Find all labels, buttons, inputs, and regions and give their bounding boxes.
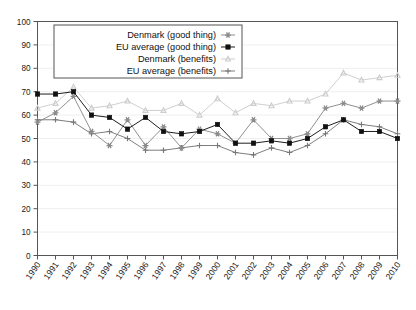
data-point-marker (197, 129, 201, 133)
x-tick-label: 1998 (167, 260, 186, 282)
data-point-marker (161, 147, 167, 153)
y-axis-labels: 1009080706050403020100 (17, 18, 31, 261)
data-point-marker (35, 92, 39, 96)
x-tick-label: 2009 (365, 260, 384, 282)
data-point-marker (125, 136, 131, 142)
y-tick-label: 30 (21, 181, 31, 190)
data-point-marker (107, 129, 113, 135)
y-tick-label: 60 (21, 111, 31, 120)
legend-label-2: EU average (good thing) (116, 42, 216, 52)
chart-legend: Denmark (good thing)EU average (good thi… (54, 25, 242, 78)
data-point-marker (323, 125, 327, 129)
x-tick-label: 1993 (77, 260, 96, 282)
y-tick-label: 0 (26, 252, 31, 261)
data-point-marker (125, 127, 129, 131)
x-tick-label: 1991 (41, 260, 60, 282)
data-point-marker (377, 129, 381, 133)
y-tick-label: 10 (21, 228, 31, 237)
data-point-marker (395, 131, 401, 137)
data-point-marker (71, 119, 77, 125)
x-tick-label: 2008 (347, 260, 366, 282)
data-point-marker (251, 152, 257, 158)
data-point-marker (341, 101, 347, 106)
data-point-marker (71, 90, 75, 94)
series-line (38, 73, 398, 115)
x-tick-label: 2010 (383, 260, 402, 282)
x-tick-label: 2007 (329, 260, 348, 282)
data-point-marker (215, 131, 221, 136)
x-tick-label: 1990 (23, 260, 42, 282)
data-point-marker (161, 129, 165, 133)
data-point-marker (287, 141, 291, 145)
x-tick-label: 2003 (257, 260, 276, 282)
data-point-marker (269, 145, 275, 151)
data-point-marker (89, 113, 93, 117)
x-tick-label: 2004 (275, 260, 294, 282)
x-tick-label: 1997 (149, 260, 168, 282)
y-tick-label: 20 (21, 205, 31, 214)
data-point-marker (125, 117, 131, 122)
data-point-marker (53, 92, 57, 96)
data-point-marker (143, 147, 149, 153)
data-point-marker (53, 117, 59, 123)
x-tick-label: 1992 (59, 260, 78, 282)
data-point-marker (233, 141, 237, 145)
data-point-marker (305, 143, 311, 149)
data-point-marker (179, 132, 183, 136)
x-tick-label: 1996 (131, 260, 150, 282)
x-tick-label: 2006 (311, 260, 330, 282)
line-chart: 1009080706050403020100 19901991199219931… (0, 0, 416, 310)
x-axis-ticks (38, 256, 398, 260)
x-axis-labels: 1990199119921993199419951996199719981999… (23, 260, 402, 282)
x-tick-label: 2001 (221, 260, 240, 282)
data-point-marker (287, 150, 293, 156)
data-point-marker (395, 136, 399, 140)
data-point-marker (251, 141, 255, 145)
data-point-marker (107, 115, 111, 119)
data-point-marker (377, 124, 383, 130)
x-tick-label: 2000 (203, 260, 222, 282)
legend-label-3: Denmark (benefits) (138, 54, 216, 64)
data-point-marker (305, 131, 311, 136)
data-point-marker (215, 143, 221, 149)
data-point-marker (323, 105, 329, 110)
series-2 (35, 90, 399, 146)
data-point-marker (269, 139, 273, 143)
y-tick-label: 40 (21, 158, 31, 167)
data-series-layer (35, 70, 401, 157)
data-point-marker (359, 105, 365, 110)
legend-label-1: Denmark (good thing) (127, 30, 216, 40)
data-point-marker (341, 118, 345, 122)
data-point-marker (197, 143, 203, 149)
y-axis-ticks (34, 22, 38, 256)
chart-container: 1009080706050403020100 19901991199219931… (0, 0, 416, 310)
x-tick-label: 2005 (293, 260, 312, 282)
data-point-marker (143, 115, 147, 119)
y-tick-label: 80 (21, 64, 31, 73)
y-tick-label: 100 (17, 18, 31, 27)
y-tick-label: 50 (21, 135, 31, 144)
x-tick-label: 1999 (185, 260, 204, 282)
data-point-marker (305, 136, 309, 140)
data-point-marker (377, 98, 383, 103)
legend-label-4: EU average (benefits) (127, 66, 216, 76)
y-tick-label: 70 (21, 88, 31, 97)
data-point-marker (233, 150, 239, 156)
data-point-marker (359, 122, 365, 128)
data-point-marker (359, 129, 363, 133)
y-tick-label: 90 (21, 41, 31, 50)
data-point-marker (215, 122, 219, 126)
data-point-marker (287, 136, 293, 141)
x-tick-label: 1995 (113, 260, 132, 282)
x-tick-label: 1994 (95, 260, 114, 282)
data-point-marker (226, 45, 230, 49)
x-tick-label: 2002 (239, 260, 258, 282)
